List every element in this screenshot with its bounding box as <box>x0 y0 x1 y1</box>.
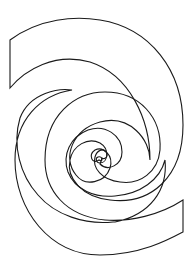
double-spiral-illustration <box>0 0 194 280</box>
horizontal-hatched-band <box>10 18 183 200</box>
vertical-hatched-band <box>15 90 183 255</box>
